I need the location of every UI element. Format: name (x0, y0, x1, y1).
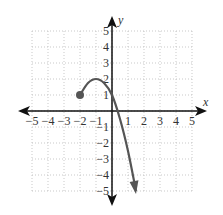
x-tick-label: −3 (58, 114, 71, 128)
y-tick-label: −5 (96, 184, 109, 198)
y-tick-label: 4 (103, 40, 109, 54)
x-axis-label: x (202, 95, 209, 109)
curve-end-arrow-icon (130, 180, 139, 194)
x-tick-label: 1 (125, 114, 131, 128)
y-tick-label: −3 (96, 152, 109, 166)
y-tick-label: −2 (96, 136, 109, 150)
x-tick-label: −5 (26, 114, 39, 128)
y-axis-label: y (117, 13, 124, 27)
y-tick-label: 1 (103, 88, 109, 102)
x-tick-label: 3 (157, 114, 163, 128)
x-tick-label: 2 (141, 114, 147, 128)
x-tick-label: 4 (173, 114, 179, 128)
x-tick-label: −4 (42, 114, 55, 128)
y-tick-label: −1 (96, 120, 109, 134)
x-tick-label: −2 (74, 114, 87, 128)
x-tick-label: 5 (189, 114, 195, 128)
graph: x y −5−4−3−2−11234554321−1−2−3−4−5 (0, 0, 223, 215)
closed-endpoint (76, 91, 84, 99)
y-tick-label: 3 (103, 56, 109, 70)
axes (18, 16, 207, 206)
y-tick-label: −4 (96, 168, 109, 182)
y-tick-label: 5 (103, 24, 109, 38)
